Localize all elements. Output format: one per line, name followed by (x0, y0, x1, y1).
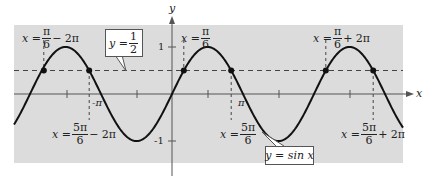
x-tick-neg-pi: -π (92, 98, 102, 108)
annotation-5pi6-minus-2pi: x =5π6− 2π (52, 122, 116, 147)
annotation-5pi6: x =5π6 (220, 122, 257, 147)
annotation-pi6-minus-2pi: x =π6− 2π (22, 26, 79, 51)
x-axis-arrow-icon (406, 91, 414, 97)
x-tick-pi: π (238, 98, 245, 108)
y-tick-neg1: -1 (154, 136, 164, 146)
half-line-label: y =12 (105, 29, 143, 57)
annotation-pi6-plus-2pi: x =π6+ 2π (313, 26, 370, 51)
y-tick-1: 1 (158, 42, 164, 52)
y-axis-arrow-icon (169, 16, 175, 24)
y-axis-label: y (169, 3, 175, 14)
x-axis-label: x (416, 88, 422, 99)
annotation-pi6: x =π6 (181, 26, 211, 51)
annotation-5pi6-plus-2pi: x =5π6+ 2π (341, 122, 405, 147)
sine-function-label: y = sin x (265, 146, 314, 165)
